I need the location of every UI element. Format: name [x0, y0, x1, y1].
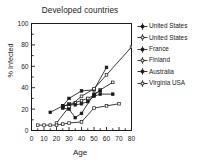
x-tick-label: 80 [125, 135, 139, 142]
legend-item-label: France [148, 46, 169, 52]
data-point-marker [49, 111, 52, 114]
data-point-marker [74, 116, 77, 119]
data-point-marker [68, 108, 71, 111]
data-point-marker [111, 81, 114, 84]
y-tick-label: 60 [15, 63, 29, 70]
legend-item-label: Virginia USA [148, 80, 185, 86]
data-point-marker [99, 90, 102, 93]
data-point-marker [55, 124, 58, 127]
data-point-marker [80, 99, 83, 102]
legend-item[interactable]: United States [137, 32, 200, 43]
legend-item[interactable]: Virginia USA [137, 77, 200, 88]
data-point-marker [80, 90, 83, 93]
data-point-marker [105, 105, 108, 108]
legend-item-label: United States [148, 23, 187, 29]
x-axis-label: Age [28, 148, 132, 157]
data-point-marker [80, 95, 83, 98]
data-point-marker [68, 122, 71, 125]
data-point-marker [80, 121, 83, 124]
data-point-marker [93, 107, 96, 110]
legend-item-label: Australia [148, 69, 174, 75]
data-point-marker [105, 66, 108, 69]
y-tick-label: 100 [15, 20, 29, 27]
y-tick-label: 40 [15, 84, 29, 91]
data-point-marker [99, 93, 102, 96]
data-point-marker [36, 124, 39, 127]
y-tick-label: 80 [15, 41, 29, 48]
legend-marker-icon [137, 55, 148, 66]
data-point-marker [80, 112, 83, 115]
data-point-marker [111, 93, 114, 96]
data-point-marker [130, 46, 133, 49]
legend-item[interactable]: United States [137, 21, 200, 32]
legend-item-label: Finland [148, 57, 170, 63]
data-point-marker [118, 102, 121, 105]
data-point-marker [61, 107, 64, 110]
y-axis-label: % Infected [6, 39, 15, 83]
legend-marker-icon [137, 21, 148, 32]
legend-item-label: United States [148, 35, 187, 41]
data-point-marker [86, 97, 89, 100]
data-point-marker [61, 123, 64, 126]
legend-marker-icon [137, 32, 148, 43]
legend-marker-icon [137, 78, 148, 89]
legend-marker-icon [137, 44, 148, 55]
data-point-marker [93, 87, 96, 90]
chart-figure: Developed countries % Infected Age 02040… [0, 0, 200, 165]
chart-legend: United StatesUnited StatesFranceFinlandA… [137, 21, 200, 89]
data-point-marker [68, 97, 71, 100]
data-point-marker [74, 104, 77, 107]
y-tick-label: 0 [15, 127, 29, 134]
legend-marker-icon [137, 66, 148, 77]
data-point-marker [49, 124, 52, 127]
legend-item[interactable]: France [137, 44, 200, 55]
data-point-marker [80, 102, 83, 105]
data-point-marker [93, 93, 96, 96]
legend-item[interactable]: Australia [137, 66, 200, 77]
legend-item[interactable]: Finland [137, 55, 200, 66]
data-point-marker [43, 124, 46, 127]
data-point-marker [105, 74, 108, 77]
y-tick-label: 20 [15, 106, 29, 113]
